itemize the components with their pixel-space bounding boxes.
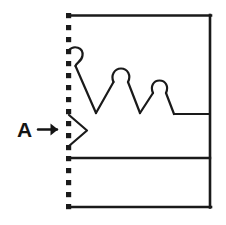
- dot: [66, 192, 71, 197]
- dot: [66, 97, 71, 102]
- dot: [66, 13, 71, 18]
- peak-3-loop: [152, 81, 167, 94]
- left-dotted-border: [66, 13, 71, 209]
- segment-valley2-peak3: [140, 93, 153, 113]
- peak-2-loop: [112, 69, 129, 83]
- arrow-icon: [38, 124, 58, 136]
- dot: [66, 25, 71, 30]
- dot: [66, 204, 71, 209]
- dot: [66, 121, 71, 126]
- dot: [66, 156, 71, 161]
- dot: [66, 73, 71, 78]
- figure-canvas: A: [0, 0, 226, 225]
- dot: [66, 180, 71, 185]
- dot: [66, 109, 71, 114]
- dot: [66, 37, 71, 42]
- segment-valley1-peak2: [96, 82, 114, 113]
- segment-peak1-valley1: [76, 66, 97, 113]
- dot: [66, 85, 71, 90]
- label-a: A: [17, 118, 32, 141]
- dot: [66, 133, 71, 138]
- line-diagram: A: [0, 0, 226, 225]
- segment-peak2-valley2: [128, 82, 140, 113]
- chevron-notch: [69, 115, 87, 146]
- dot: [66, 168, 71, 173]
- dot: [66, 61, 71, 66]
- segment-peak3-tail: [166, 93, 174, 114]
- zigzag-crown-path: [69, 47, 211, 114]
